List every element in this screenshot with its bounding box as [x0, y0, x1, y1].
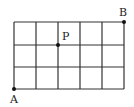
point-a-label: A: [9, 93, 19, 106]
point-p-label: P: [62, 30, 70, 43]
point-b-dot: [122, 20, 126, 24]
point-p-dot: [56, 43, 60, 47]
grid-diagram: A B P: [0, 0, 134, 107]
point-b-label: B: [119, 6, 127, 19]
point-a-dot: [12, 87, 16, 91]
